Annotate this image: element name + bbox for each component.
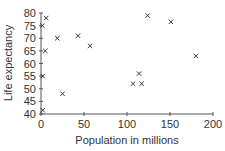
- x-marker-icon: [139, 82, 143, 86]
- y-tick-label: 75: [24, 20, 36, 32]
- x-marker-icon: [43, 49, 47, 53]
- x-marker-icon: [169, 20, 173, 24]
- scatter-chart: 404550556065707580 050100150200 Populati…: [0, 0, 225, 151]
- x-tick-label: 100: [118, 118, 136, 130]
- x-tick-label: 200: [204, 118, 222, 130]
- data-points: [40, 13, 198, 112]
- x-tick-label: 150: [161, 118, 179, 130]
- x-marker-icon: [44, 16, 48, 20]
- x-marker-icon: [60, 92, 64, 96]
- y-tick-label: 70: [24, 32, 36, 44]
- x-marker-icon: [88, 44, 92, 48]
- y-axis-label: Life expectancy: [2, 24, 14, 101]
- x-tick-label: 50: [78, 118, 90, 130]
- x-marker-icon: [137, 71, 141, 75]
- y-tick-label: 60: [24, 58, 36, 70]
- x-marker-icon: [131, 82, 135, 86]
- y-tick-label: 55: [24, 70, 36, 82]
- y-tick-label: 50: [24, 83, 36, 95]
- x-axis-label: Population in millions: [75, 134, 179, 146]
- x-marker-icon: [145, 13, 149, 17]
- y-tick-label: 45: [24, 95, 36, 107]
- x-marker-icon: [76, 34, 80, 38]
- x-marker-icon: [194, 54, 198, 58]
- y-tick-label: 40: [24, 108, 36, 120]
- x-marker-icon: [55, 36, 59, 40]
- x-tick-label: 0: [38, 118, 44, 130]
- y-tick-label: 65: [24, 45, 36, 57]
- x-axis: 050100150200: [38, 112, 222, 130]
- y-tick-label: 80: [24, 7, 36, 19]
